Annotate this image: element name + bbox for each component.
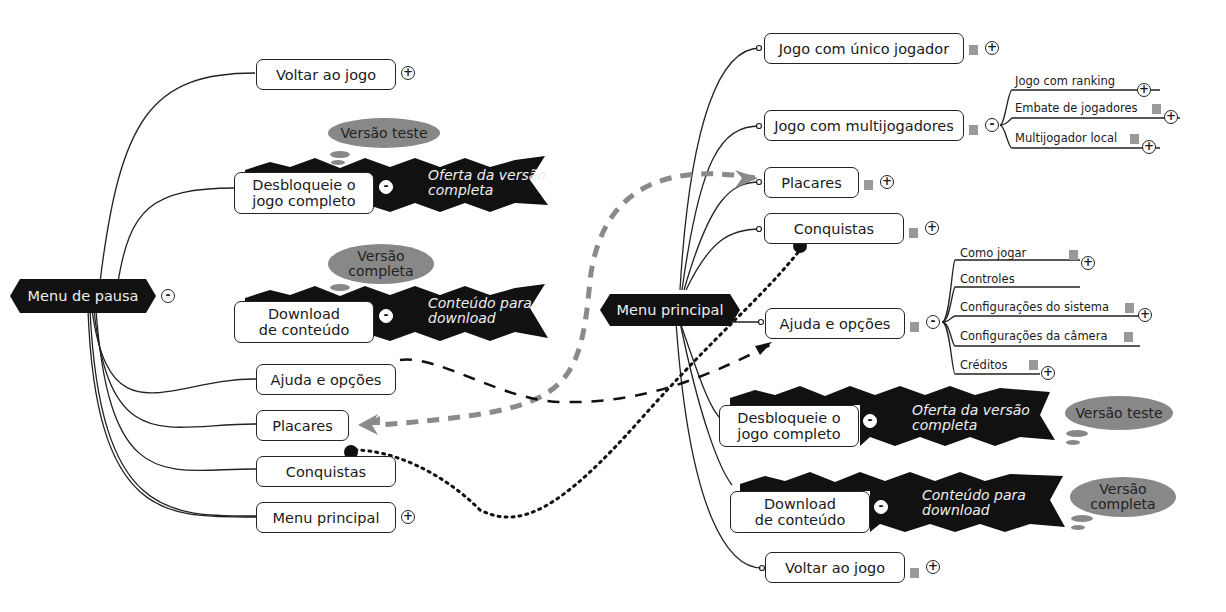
node-multijogadores[interactable]: Jogo com multijogadores	[764, 110, 964, 141]
subitem-multijogador-local[interactable]: Multijogador local	[1015, 131, 1117, 145]
node-ajuda-opcoes[interactable]: Ajuda e opções	[765, 308, 905, 339]
collapse-toggle[interactable]: -	[926, 315, 940, 329]
collapse-toggle[interactable]: -	[985, 118, 999, 132]
banner-oferta: Oferta da versão completa	[912, 403, 1030, 433]
subitem-ranking[interactable]: Jogo com ranking	[1015, 74, 1115, 88]
note-icon[interactable]	[910, 322, 919, 332]
note-icon[interactable]	[969, 45, 978, 55]
banner-oferta: Oferta da versão completa	[428, 168, 546, 198]
root-label: Menu principal	[617, 302, 724, 318]
expand-toggle[interactable]: +	[1041, 366, 1055, 380]
expand-toggle[interactable]: +	[1081, 256, 1095, 270]
note-icon[interactable]	[1130, 134, 1139, 144]
banner-conteudo: Conteúdo para download	[428, 296, 532, 326]
subitem-creditos[interactable]: Créditos	[960, 358, 1008, 372]
node-download-conteudo[interactable]: Download de conteúdo	[234, 301, 374, 343]
expand-toggle[interactable]: +	[925, 221, 939, 235]
node-jogo-unico[interactable]: Jogo com único jogador	[764, 33, 964, 64]
expand-toggle[interactable]: +	[401, 510, 415, 524]
node-conquistas[interactable]: Conquistas	[764, 213, 904, 244]
expand-toggle[interactable]: +	[880, 175, 894, 189]
node-menu-principal[interactable]: Menu principal	[256, 502, 396, 533]
callout-versao-teste: Versão teste	[1065, 396, 1173, 430]
note-icon[interactable]	[969, 125, 978, 135]
expand-toggle[interactable]: +	[926, 560, 940, 574]
note-icon[interactable]	[864, 180, 873, 190]
root-label: Menu de pausa	[28, 288, 139, 304]
expand-toggle[interactable]: +	[1137, 83, 1151, 97]
thought-puff	[1066, 430, 1088, 437]
subitem-config-sistema[interactable]: Configurações do sistema	[960, 300, 1109, 314]
node-voltar-ao-jogo[interactable]: Voltar ao jogo	[256, 59, 396, 90]
node-voltar-ao-jogo[interactable]: Voltar ao jogo	[765, 552, 905, 583]
note-icon[interactable]	[1069, 250, 1078, 260]
collapse-toggle[interactable]: -	[379, 180, 393, 194]
expand-toggle[interactable]: +	[985, 41, 999, 55]
expand-toggle[interactable]: +	[401, 66, 415, 80]
banner-conteudo: Conteúdo para download	[922, 488, 1026, 518]
node-desbloqueie[interactable]: Desbloqueie o jogo completo	[719, 405, 859, 447]
collapse-toggle[interactable]: -	[161, 289, 175, 303]
collapse-toggle[interactable]: -	[863, 414, 877, 428]
thought-puff	[1071, 515, 1093, 522]
note-icon[interactable]	[1029, 360, 1038, 370]
subitem-config-camera[interactable]: Configurações da câmera	[960, 329, 1107, 343]
thought-puff	[331, 160, 345, 165]
node-download-conteudo[interactable]: Download de conteúdo	[730, 491, 870, 533]
callout-versao-completa: Versão completa	[328, 244, 434, 284]
note-icon[interactable]	[1125, 303, 1134, 313]
expand-toggle[interactable]: +	[1142, 140, 1156, 154]
node-placares[interactable]: Placares	[256, 410, 349, 441]
callout-versao-teste: Versão teste	[328, 118, 440, 148]
root-menu-de-pausa[interactable]: Menu de pausa	[10, 279, 156, 313]
subitem-embate[interactable]: Embate de jogadores	[1015, 101, 1138, 115]
thought-puff	[330, 284, 350, 291]
node-conquistas[interactable]: Conquistas	[256, 456, 396, 487]
callout-versao-completa: Versão completa	[1070, 477, 1176, 517]
node-ajuda-opcoes[interactable]: Ajuda e opções	[256, 364, 396, 395]
note-icon[interactable]	[909, 228, 918, 238]
thought-puff	[1071, 525, 1085, 530]
collapse-toggle[interactable]: -	[874, 500, 888, 514]
thought-puff	[1066, 440, 1080, 445]
subitem-como-jogar[interactable]: Como jogar	[960, 246, 1026, 260]
thought-puff	[330, 151, 350, 158]
expand-toggle[interactable]: +	[1138, 308, 1152, 322]
node-placares[interactable]: Placares	[764, 167, 859, 198]
subitem-controles[interactable]: Controles	[960, 272, 1015, 286]
note-icon[interactable]	[910, 568, 919, 578]
root-menu-principal[interactable]: Menu principal	[600, 294, 740, 326]
expand-toggle[interactable]: +	[1164, 110, 1178, 124]
note-icon[interactable]	[1152, 104, 1161, 114]
node-desbloqueie[interactable]: Desbloqueie o jogo completo	[234, 172, 374, 214]
collapse-toggle[interactable]: -	[379, 309, 393, 323]
note-icon[interactable]	[1124, 332, 1133, 342]
